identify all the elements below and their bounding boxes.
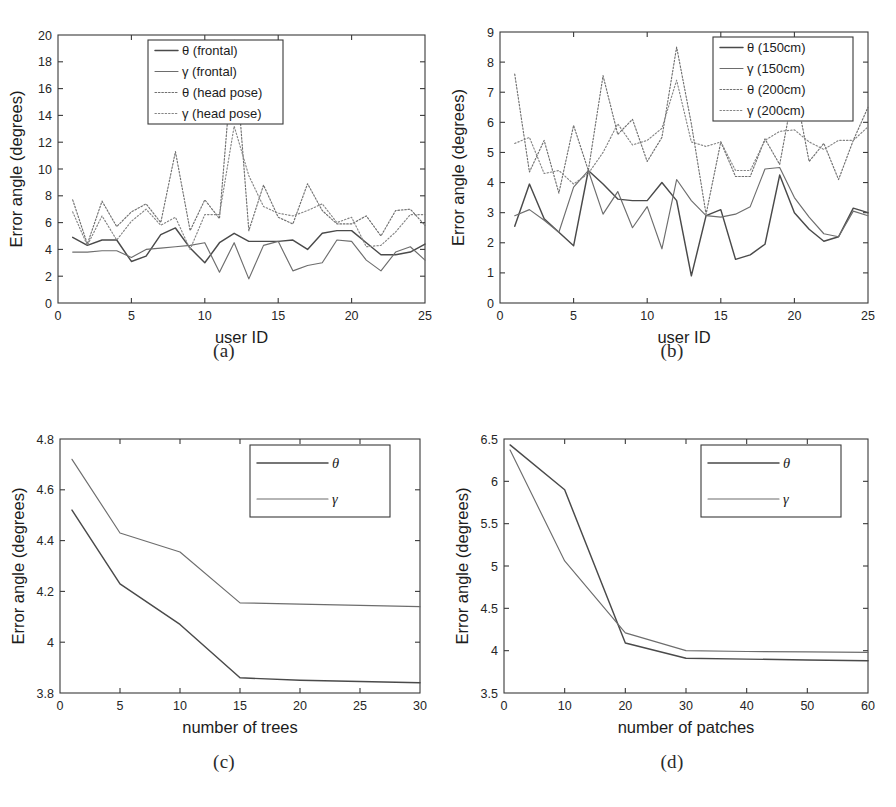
panel-a-caption: (a) [0,340,448,362]
y-tick-label: 4.4 [37,534,54,548]
panel-d-caption: (d) [448,751,896,773]
legend-label-1: θ [783,455,790,471]
panel-b: 05101520250123456789user IDError angle (… [448,0,896,403]
x-tick-label: 15 [714,309,728,323]
chart-c: 0510152025303.844.24.44.64.8number of tr… [0,411,448,756]
y-tick-label: 6.5 [481,433,498,447]
x-tick-label: 20 [618,699,632,713]
x-tick-label: 10 [198,309,212,323]
legend-label-3: θ (200cm) [747,82,806,97]
y-tick-label: 0 [45,297,52,311]
legend-label-2: γ (frontal) [182,64,237,79]
series-line-1 [72,510,420,683]
x-tick-label: 10 [558,699,572,713]
legend-label-4: γ (head pose) [182,106,262,121]
panel-a: 051015202502468101214161820user IDError … [0,0,448,403]
y-tick-label: 8 [45,189,52,203]
y-tick-label: 3.5 [481,687,498,701]
x-tick-label: 15 [233,699,247,713]
y-axis-title: Error angle (degrees) [7,91,25,248]
legend-label-3: θ (head pose) [182,85,262,100]
y-tick-label: 1 [487,266,494,280]
x-tick-label: 20 [293,699,307,713]
x-axis-title: number of trees [182,718,298,736]
y-tick-label: 5 [491,560,498,574]
y-tick-label: 8 [487,56,494,70]
y-tick-label: 6 [487,116,494,130]
y-tick-label: 16 [38,82,52,96]
y-tick-label: 7 [487,86,494,100]
y-tick-label: 3.8 [37,687,54,701]
x-tick-label: 0 [501,699,508,713]
y-tick-label: 4.2 [37,585,54,599]
legend-label-1: θ [332,455,339,471]
x-tick-label: 20 [787,309,801,323]
y-tick-label: 5.5 [481,517,498,531]
chart-d: 01020304050603.544.555.566.5number of pa… [448,411,896,756]
x-tick-label: 40 [740,699,754,713]
x-tick-label: 25 [353,699,367,713]
x-tick-label: 5 [570,309,577,323]
x-tick-label: 10 [173,699,187,713]
y-tick-label: 4 [491,644,498,658]
x-tick-label: 5 [117,699,124,713]
y-tick-label: 0 [487,297,494,311]
y-tick-label: 20 [38,29,52,43]
x-tick-label: 50 [800,699,814,713]
series-line-2 [515,168,868,249]
y-tick-label: 4 [47,636,54,650]
y-tick-label: 6 [491,475,498,489]
x-tick-label: 30 [413,699,427,713]
legend-box [250,445,390,517]
x-tick-label: 20 [345,309,359,323]
y-tick-label: 18 [38,55,52,69]
y-tick-label: 4 [487,176,494,190]
panel-c: 0510152025303.844.24.44.64.8number of tr… [0,403,448,807]
x-tick-label: 15 [271,309,285,323]
x-tick-label: 25 [861,309,875,323]
y-tick-label: 4.5 [481,602,498,616]
y-tick-label: 2 [487,236,494,250]
legend-label-1: θ (frontal) [182,43,238,58]
panel-c-caption: (c) [0,751,448,773]
y-tick-label: 4.8 [37,433,54,447]
y-axis-title: Error angle (degrees) [453,488,471,645]
y-tick-label: 14 [38,109,52,123]
panel-b-caption: (b) [448,340,896,362]
legend-label-4: γ (200cm) [747,103,805,118]
legend-label-2: γ (150cm) [747,61,805,76]
x-tick-label: 5 [128,309,135,323]
y-tick-label: 3 [487,206,494,220]
x-tick-label: 0 [55,309,62,323]
x-axis-title: number of patches [618,718,755,736]
legend-label-1: θ (150cm) [747,40,806,55]
x-tick-label: 10 [640,309,654,323]
chart-a: 051015202502468101214161820user IDError … [0,0,448,360]
y-tick-label: 5 [487,146,494,160]
y-tick-label: 12 [38,136,52,150]
series-line-1 [73,228,425,263]
x-tick-label: 30 [679,699,693,713]
y-axis-title: Error angle (degrees) [9,488,27,645]
x-tick-label: 60 [861,699,875,713]
chart-b: 05101520250123456789user IDError angle (… [448,0,896,360]
panel-d: 01020304050603.544.555.566.5number of pa… [448,403,896,807]
x-tick-label: 25 [418,309,432,323]
series-line-2 [73,240,425,279]
y-tick-label: 10 [38,163,52,177]
y-tick-label: 2 [45,270,52,284]
y-tick-label: 6 [45,216,52,230]
x-tick-label: 0 [57,699,64,713]
legend-box [701,445,841,517]
y-axis-title: Error angle (degrees) [449,89,467,246]
x-tick-label: 0 [497,309,504,323]
figure-grid: 051015202502468101214161820user IDError … [0,0,896,807]
y-tick-label: 4 [45,243,52,257]
y-tick-label: 9 [487,26,494,40]
y-tick-label: 4.6 [37,483,54,497]
